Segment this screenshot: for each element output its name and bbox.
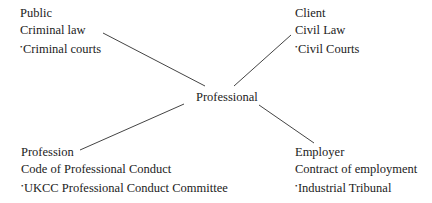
node-client-law: Civil Law: [295, 22, 359, 39]
center-node-professional: Professional: [196, 90, 258, 105]
node-client-forum: •Civil Courts: [295, 39, 359, 58]
node-profession-title: Profession: [21, 144, 228, 161]
node-employer-forum: •Industrial Tribunal: [295, 178, 417, 197]
node-public-title: Public: [20, 5, 101, 22]
connector-employer: [259, 105, 314, 143]
node-employer-title: Employer: [295, 144, 417, 161]
node-public-law: Criminal law: [20, 22, 101, 39]
connector-client: [234, 35, 291, 86]
node-profession: Profession Code of Professional Conduct …: [21, 144, 228, 197]
node-employer: Employer Contract of employment •Industr…: [295, 144, 417, 197]
node-public: Public Criminal law •Criminal courts: [20, 5, 101, 58]
connector-public: [103, 33, 205, 86]
node-employer-law: Contract of employment: [295, 161, 417, 178]
node-client-title: Client: [295, 5, 359, 22]
node-profession-law: Code of Professional Conduct: [21, 161, 228, 178]
node-client: Client Civil Law •Civil Courts: [295, 5, 359, 58]
node-profession-forum: •UKCC Professional Conduct Committee: [21, 178, 228, 197]
node-public-forum: •Criminal courts: [20, 39, 101, 58]
